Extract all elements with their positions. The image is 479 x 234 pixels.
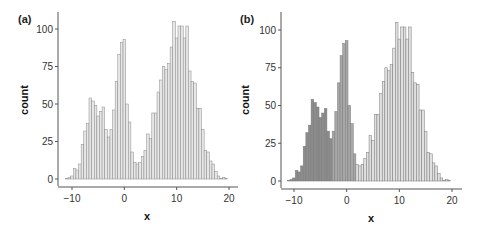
y-tick-label: 25 [265,138,277,149]
histogram-bar [290,179,293,181]
panel-label-a: (a) [18,13,31,25]
histogram-bar [438,173,441,181]
histogram-bar [84,131,87,179]
histogram-bar [430,154,433,181]
histogram-bar [401,27,404,181]
histogram-bar [178,26,181,179]
histogram-bar [79,164,82,179]
histogram-bar [353,154,356,181]
histogram-bar [160,80,163,179]
histogram-bar [445,179,448,181]
histogram-bar [123,40,126,180]
histogram-bar [173,22,176,180]
x-tick-label: 10 [394,195,406,206]
y-tick-label: 50 [265,100,277,111]
histogram-bar [144,151,147,180]
x-tick-label: 0 [344,195,350,206]
histogram-bar [301,166,304,181]
histogram-bar [303,146,306,181]
histogram-bar [94,106,97,180]
histogram-bar [225,178,228,179]
histogram-bar [295,170,298,181]
histogram-bar [406,39,409,181]
histogram-bar [217,176,220,179]
histogram-bar [422,110,425,181]
histogram-bar [194,83,197,179]
x-axis-title: x [144,210,151,222]
histogram-bar [175,38,178,179]
histogram-bar [102,107,105,179]
histogram-bar [107,137,110,179]
histogram-bar [191,82,194,180]
histogram-bar [419,110,422,181]
histogram-bar [416,84,419,181]
histogram-bar [212,164,215,179]
histogram-bar [115,82,118,180]
histogram-bar [73,169,76,180]
histogram-bar [387,71,390,181]
histogram-bar [199,109,202,180]
histogram-bar [147,134,150,179]
histogram-bar [186,26,189,179]
histogram-bar [209,161,212,179]
x-axis-title: x [368,212,375,224]
histogram-bar [359,166,362,181]
histogram-bar [432,163,435,181]
histogram-bar [327,131,330,181]
histogram-bar [128,122,131,179]
histogram-bar [393,48,396,181]
histogram-bar [99,112,102,180]
histogram-bar [361,164,364,181]
histogram-bar [105,130,108,180]
histogram-bar [168,64,171,180]
x-tick-label: −10 [286,195,303,206]
histogram-bar [170,47,173,179]
x-tick-label: 0 [122,193,128,204]
histogram-bar [298,172,301,181]
histogram-bar [424,131,427,181]
histogram-bar [188,71,191,179]
y-tick-label: 0 [270,176,276,187]
histogram-bar [403,27,406,181]
histogram-bar [374,115,377,181]
histogram-bar [348,106,351,182]
histogram-bar [435,166,438,181]
histogram-panel-a: 0255075100−1001020xcount (a) [0,0,240,234]
histogram-bar [110,130,113,180]
histogram-bar [390,65,393,181]
histogram-bar [89,98,92,179]
histogram-bar [306,133,309,181]
histogram-bar [385,68,388,181]
histogram-bar [71,176,74,179]
histogram-bar [86,124,89,180]
histogram-bar [372,140,375,181]
histogram-bar [340,56,343,181]
histogram-bar [97,116,100,179]
y-tick-label: 100 [36,24,53,35]
histogram-panel-b: 0255075100−1001020xcount (b) [240,0,479,234]
histogram-bar [319,118,322,181]
histogram-bar [133,163,136,180]
y-tick-label: 50 [42,99,54,110]
x-tick-label: 20 [446,195,458,206]
histogram-bar [196,109,199,180]
histogram-bar [131,152,134,179]
x-tick-label: 20 [223,193,235,204]
histogram-bar [343,44,346,181]
histogram-bar [222,178,225,180]
histogram-bar [165,70,168,180]
histogram-bar [443,180,446,181]
histogram-bar [141,157,144,180]
y-tick-label: 75 [42,61,54,72]
histogram-bar [308,125,311,181]
histogram-bar [287,180,290,181]
histogram-bar [92,101,95,179]
histogram-bar [314,102,317,181]
y-tick-label: 75 [265,62,277,73]
histogram-bar [139,163,142,180]
histogram-bar [440,178,443,181]
histogram-bar [215,172,218,180]
y-tick-label: 25 [42,136,54,147]
histogram-bar [183,38,186,179]
histogram-bar [322,113,325,181]
